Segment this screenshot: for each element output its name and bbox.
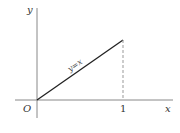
- line-y-equals-x: [37, 40, 123, 100]
- y-axis-label: y: [26, 4, 33, 15]
- graph-figure: y O 1 x y=x: [0, 0, 180, 133]
- x-axis-label: x: [165, 103, 171, 114]
- x-tick-label-1: 1: [120, 103, 126, 114]
- origin-label: O: [23, 103, 31, 114]
- line-equation-label: y=x: [65, 57, 84, 74]
